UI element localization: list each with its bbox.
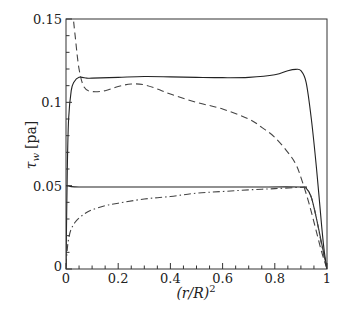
series-solid-upper xyxy=(66,69,327,269)
x-tick-label: 0.8 xyxy=(264,271,285,286)
series-dash-dot xyxy=(66,187,327,269)
series-dashed xyxy=(73,11,327,269)
plot-curves xyxy=(66,11,327,269)
x-tick-label: 0.4 xyxy=(160,271,181,286)
y-tick-label: 0 xyxy=(54,259,62,274)
axis-ticks xyxy=(66,19,327,269)
y-tick-label: 0.15 xyxy=(33,12,62,27)
x-tick-label: 0.2 xyxy=(108,271,129,286)
plot-frame xyxy=(66,19,327,269)
x-axis-label: (r/R)2 xyxy=(176,283,215,301)
y-tick-label: 0.1 xyxy=(41,95,62,110)
series-solid-lower xyxy=(66,186,327,269)
x-tick-label: 0 xyxy=(62,271,70,286)
y-axis-label: τw[pa] xyxy=(23,121,41,170)
y-tick-label: 0.05 xyxy=(33,179,62,194)
line-chart: 00.20.40.60.8100.050.10.15 (r/R)2 τw[pa] xyxy=(0,0,342,314)
axis-tick-labels: 00.20.40.60.8100.050.10.15 xyxy=(33,12,331,286)
x-tick-label: 1 xyxy=(323,271,331,286)
